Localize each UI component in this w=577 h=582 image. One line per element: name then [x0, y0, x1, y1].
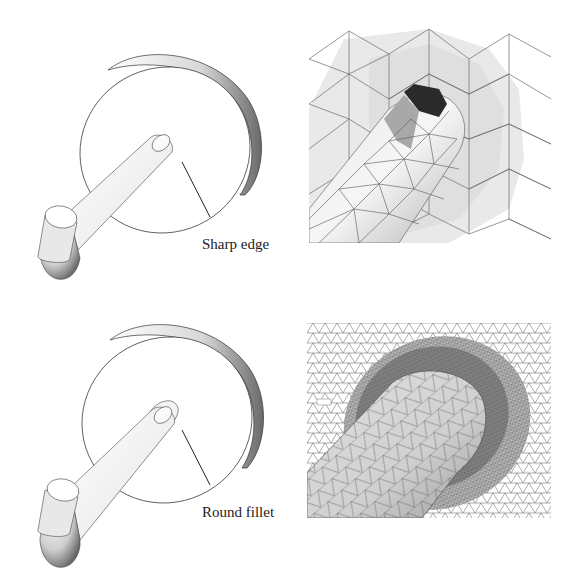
coarse-mesh-image [309, 29, 551, 243]
refined-mesh-image [307, 323, 551, 518]
cad-model-sharp-edge: Sharp edge [0, 0, 290, 290]
mesh-annotation-box [317, 399, 331, 405]
mesh-closeup-round-fillet [307, 323, 551, 518]
round-fillet-model-drawing [0, 300, 290, 582]
round-fillet-label: Round fillet [202, 504, 274, 521]
cad-model-round-fillet: Round fillet [0, 300, 290, 582]
mesh-closeup-sharp-edge [309, 29, 551, 243]
sharp-edge-label: Sharp edge [202, 236, 269, 253]
